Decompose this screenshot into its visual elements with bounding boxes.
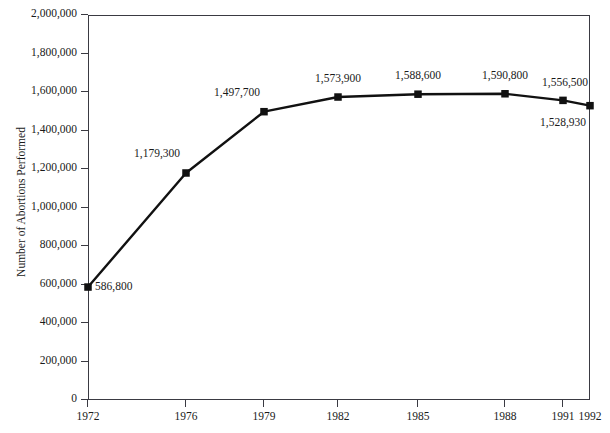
y-tick-label: 1,000,000 xyxy=(0,200,77,212)
x-tick-label: 1976 xyxy=(156,410,216,422)
x-tick-label: 1988 xyxy=(475,410,535,422)
y-tick-label: 1,200,000 xyxy=(0,161,77,173)
data-point-label: 1,528,930 xyxy=(496,116,586,128)
y-tick-mark xyxy=(81,53,88,54)
y-tick-mark xyxy=(81,361,88,362)
y-tick-label: 600,000 xyxy=(0,277,77,289)
data-point-label: 1,573,900 xyxy=(293,72,383,84)
data-point-label: 586,800 xyxy=(95,280,132,292)
data-point-label: 1,497,700 xyxy=(170,86,260,98)
x-tick-mark xyxy=(87,400,88,407)
y-tick-label: 400,000 xyxy=(0,315,77,327)
y-tick-label: 1,800,000 xyxy=(0,46,77,58)
x-tick-label: 1992 xyxy=(560,410,610,422)
y-tick-mark xyxy=(81,91,88,92)
y-tick-mark xyxy=(81,284,88,285)
y-tick-mark xyxy=(81,130,88,131)
data-point-label: 1,556,500 xyxy=(520,76,610,88)
y-tick-label: 200,000 xyxy=(0,354,77,366)
x-tick-label: 1985 xyxy=(388,410,448,422)
x-tick-mark xyxy=(337,400,338,407)
y-tick-mark xyxy=(81,207,88,208)
y-tick-mark xyxy=(81,245,88,246)
x-tick-mark xyxy=(504,400,505,407)
x-tick-label: 1972 xyxy=(58,410,118,422)
x-tick-mark xyxy=(562,400,563,407)
y-tick-label: 800,000 xyxy=(0,238,77,250)
x-tick-mark xyxy=(185,400,186,407)
x-tick-mark xyxy=(417,400,418,407)
chart-container: Number of Abortions Performed 0200,00040… xyxy=(0,0,610,433)
chart-title-clipped xyxy=(330,0,580,3)
y-tick-label: 1,400,000 xyxy=(0,123,77,135)
x-tick-label: 1982 xyxy=(308,410,368,422)
y-tick-label: 2,000,000 xyxy=(0,7,77,19)
y-tick-label: 1,600,000 xyxy=(0,84,77,96)
y-tick-mark xyxy=(81,14,88,15)
x-tick-mark xyxy=(263,400,264,407)
x-tick-label: 1979 xyxy=(234,410,294,422)
y-tick-mark xyxy=(81,168,88,169)
y-tick-mark xyxy=(81,322,88,323)
data-point-label: 1,179,300 xyxy=(90,147,180,159)
y-tick-label: 0 xyxy=(0,392,77,404)
data-point-label: 1,588,600 xyxy=(373,69,463,81)
